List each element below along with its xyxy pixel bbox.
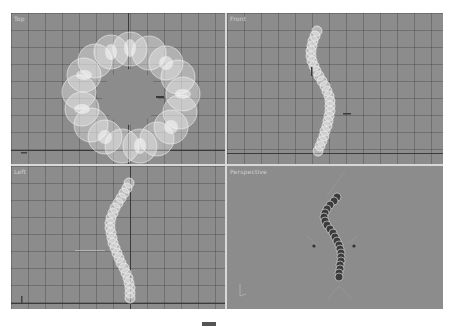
sphere-chain-object[interactable] — [11, 166, 225, 309]
figure-caption: 图 5.32 — [0, 316, 454, 328]
torus-object[interactable] — [11, 13, 225, 164]
caption-text: 图 5.32 — [220, 318, 252, 328]
viewport-layout: Top — [11, 13, 443, 309]
sphere-chain-object[interactable] — [227, 13, 443, 164]
caption-mark — [202, 322, 216, 326]
viewport-front[interactable]: Front — [227, 13, 443, 164]
sphere-chain-shaded-object[interactable] — [227, 166, 443, 309]
viewport-top[interactable]: Top — [11, 13, 225, 164]
viewport-perspective[interactable]: Perspective — [227, 166, 443, 309]
viewport-left[interactable]: Left — [11, 166, 225, 309]
